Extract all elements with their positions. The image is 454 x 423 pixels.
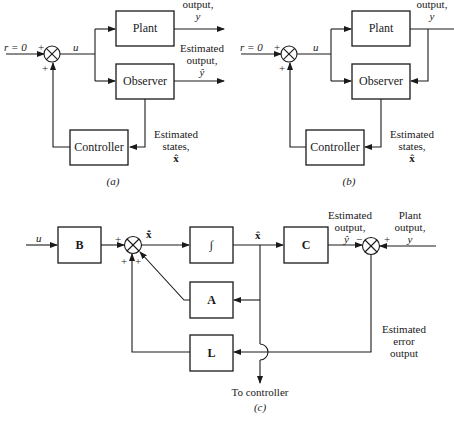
controller-label: Controller xyxy=(70,141,128,153)
plant-output-label: output, y xyxy=(178,0,218,22)
block-l-label: L xyxy=(190,347,233,359)
plant-output-label: Plant output, y xyxy=(390,209,430,245)
xhat-dot-label: x̂̇ xyxy=(146,228,152,240)
plus-sign: + xyxy=(274,41,280,53)
plus-sign: + xyxy=(38,41,44,53)
plant-label: Plant xyxy=(352,22,410,34)
plant-output-label: output, y xyxy=(412,0,452,22)
input-label-b: r = 0 xyxy=(240,41,263,53)
to-controller-label: To controller xyxy=(222,386,298,398)
estimated-error-label: Estimated error output xyxy=(376,323,432,359)
plus-sign: + xyxy=(279,62,285,74)
plant-label: Plant xyxy=(116,22,174,34)
estimated-states-label: Estimated states, x̂ xyxy=(148,128,204,164)
estimated-states-label: Estimated states, x̂ xyxy=(384,128,440,164)
block-a-label: A xyxy=(190,294,233,306)
caption-c: (c) xyxy=(253,401,267,413)
observer-label: Observer xyxy=(116,75,174,87)
controller-label: Controller xyxy=(306,141,364,153)
plus-sign: + xyxy=(135,255,141,267)
plus-sign: + xyxy=(121,255,127,267)
caption-a: (a) xyxy=(106,175,120,187)
caption-b: (b) xyxy=(342,175,356,187)
xhat-label: x̂ xyxy=(255,229,261,241)
plus-sign: + xyxy=(115,233,121,245)
estimated-output-label: Estimated output, ŷ xyxy=(174,42,230,78)
signal-u-label: u xyxy=(73,41,79,53)
input-u-label: u xyxy=(36,232,42,244)
block-integrator-label: ∫ xyxy=(190,239,233,251)
observer-label: Observer xyxy=(352,75,410,87)
input-label-a: r = 0 xyxy=(4,41,27,53)
estimated-output-label: Estimated output, ŷ xyxy=(322,209,378,245)
block-b-label: B xyxy=(58,239,101,251)
signal-u-label: u xyxy=(313,41,319,53)
plus-sign: + xyxy=(42,62,48,74)
